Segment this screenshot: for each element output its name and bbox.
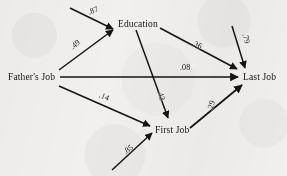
path-diagram: Father's Job Education First Job Last Jo… <box>0 0 287 176</box>
node-last-job: Last Job <box>243 72 276 82</box>
arrow-fathers-job-to-education <box>59 30 113 70</box>
coefficient-fathers-job-to-last-job: .08 <box>180 63 190 72</box>
node-fathers-job: Father's Job <box>8 72 55 82</box>
node-first-job: First Job <box>155 125 189 135</box>
node-education: Education <box>118 19 158 29</box>
arrow-residual-to-last-job <box>232 26 245 68</box>
arrow-first-job-to-last-job <box>190 85 242 128</box>
arrow-education-to-first-job <box>136 30 168 118</box>
